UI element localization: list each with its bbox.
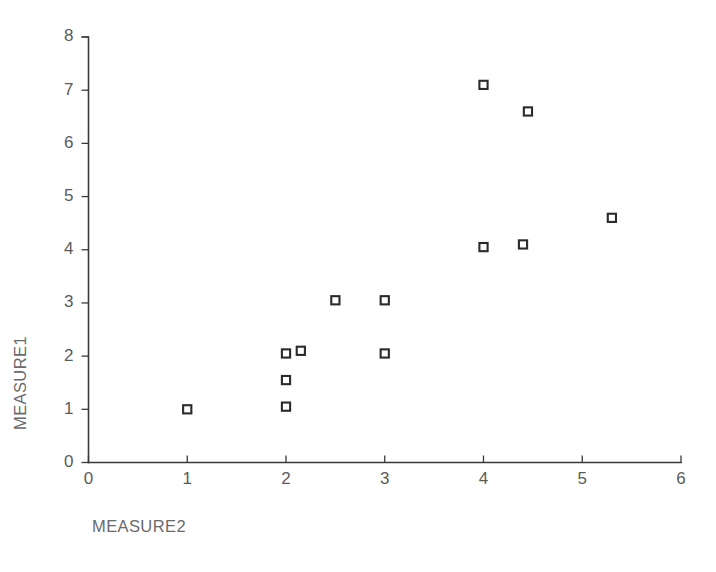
y-tick-label: 0 — [64, 452, 73, 471]
data-points — [183, 81, 616, 414]
y-tick-label: 8 — [64, 26, 73, 45]
y-tick-label: 3 — [64, 292, 73, 311]
data-point — [282, 403, 290, 411]
x-tick-label: 6 — [676, 469, 685, 488]
y-tick-label: 2 — [64, 346, 73, 365]
scatter-chart: 012345678 0123456 MEASURE2 MEASURE1 — [0, 0, 716, 572]
x-tick-label: 2 — [281, 469, 290, 488]
data-point — [282, 349, 290, 357]
y-axis-title: MEASURE1 — [11, 336, 29, 430]
data-point — [608, 214, 616, 222]
y-tick-label: 1 — [64, 399, 73, 418]
x-axis-title: MEASURE2 — [92, 517, 186, 535]
x-tick-label: 0 — [84, 469, 93, 488]
x-axis-ticks: 0123456 — [84, 456, 686, 488]
y-axis-ticks: 012345678 — [64, 26, 88, 471]
x-tick-label: 3 — [380, 469, 389, 488]
y-tick-label: 5 — [64, 186, 73, 205]
y-tick-label: 6 — [64, 133, 73, 152]
x-tick-label: 4 — [479, 469, 488, 488]
x-tick-label: 5 — [578, 469, 587, 488]
data-point — [381, 349, 389, 357]
data-point — [331, 296, 339, 304]
data-point — [524, 107, 532, 115]
data-point — [381, 296, 389, 304]
data-point — [282, 376, 290, 384]
data-point — [519, 240, 527, 248]
y-tick-label: 7 — [64, 80, 73, 99]
data-point — [479, 243, 487, 251]
data-point — [297, 347, 305, 355]
data-point — [183, 405, 191, 413]
y-tick-label: 4 — [64, 239, 73, 258]
plot-area: 012345678 0123456 MEASURE2 MEASURE1 — [0, 0, 716, 572]
x-tick-label: 1 — [183, 469, 192, 488]
data-point — [479, 81, 487, 89]
